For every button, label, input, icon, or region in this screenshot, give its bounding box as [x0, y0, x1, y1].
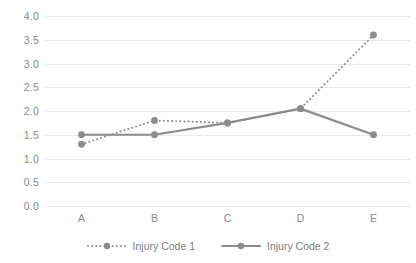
legend-label: Injury Code 2 — [267, 240, 329, 252]
legend-item[interactable]: Injury Code 1 — [87, 240, 195, 252]
legend-key-solid — [221, 241, 261, 251]
x-axis-tick-label: A — [78, 212, 85, 224]
y-axis-tick-label: 3.5 — [24, 34, 39, 46]
x-axis-tick-label: E — [370, 212, 377, 224]
series-data-point — [78, 141, 85, 148]
y-axis-tick-label: 2.0 — [24, 105, 39, 117]
x-axis-tick-label: C — [224, 212, 232, 224]
gridline — [45, 206, 410, 207]
y-axis-tick-label: 0.0 — [24, 200, 39, 212]
y-axis-tick-label: 1.0 — [24, 153, 39, 165]
series-data-point — [297, 105, 304, 112]
series-data-point — [370, 131, 377, 138]
series-line — [82, 35, 374, 144]
chart-series-layer — [45, 16, 410, 206]
legend-key-dotted — [87, 241, 127, 251]
series-data-point — [151, 117, 158, 124]
legend-label: Injury Code 1 — [133, 240, 195, 252]
chart-legend: Injury Code 1Injury Code 2 — [0, 240, 416, 252]
y-axis-tick-label: 0.5 — [24, 176, 39, 188]
series-data-point — [78, 131, 85, 138]
y-axis-tick-label: 2.5 — [24, 81, 39, 93]
series-data-point — [151, 131, 158, 138]
y-axis-tick-label: 1.5 — [24, 129, 39, 141]
legend-item[interactable]: Injury Code 2 — [221, 240, 329, 252]
x-axis-tick-label: B — [151, 212, 158, 224]
y-axis-tick-label: 3.0 — [24, 58, 39, 70]
y-axis-tick-label: 4.0 — [24, 10, 39, 22]
series-data-point — [224, 119, 231, 126]
series-data-point — [370, 32, 377, 39]
x-axis-tick-label: D — [297, 212, 305, 224]
line-chart: 0.00.51.01.52.02.53.03.54.0 ABCDE Injury… — [0, 0, 416, 263]
